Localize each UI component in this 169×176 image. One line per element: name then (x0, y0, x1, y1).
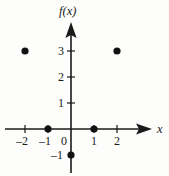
y-tick-label-3: 3 (58, 45, 64, 57)
x-tick-label-neg1: –1 (39, 135, 51, 147)
x-tick-label-neg2: –2 (16, 135, 28, 147)
y-tick-label-2: 2 (58, 71, 64, 83)
y-tick-label-1: 1 (58, 97, 64, 109)
coordinate-plane-chart (0, 0, 169, 176)
data-point (21, 47, 28, 54)
x-axis-label: x (157, 123, 163, 136)
data-point (67, 151, 74, 158)
y-tick-label-neg1: –1 (51, 149, 63, 161)
x-tick-label-zero: 0 (61, 135, 67, 147)
y-axis-label: f(x) (59, 5, 76, 18)
data-point (90, 125, 97, 132)
x-tick-label-pos2: 2 (114, 135, 120, 147)
data-point (113, 47, 120, 54)
data-point (44, 125, 51, 132)
x-tick-label-pos1: 1 (91, 135, 97, 147)
